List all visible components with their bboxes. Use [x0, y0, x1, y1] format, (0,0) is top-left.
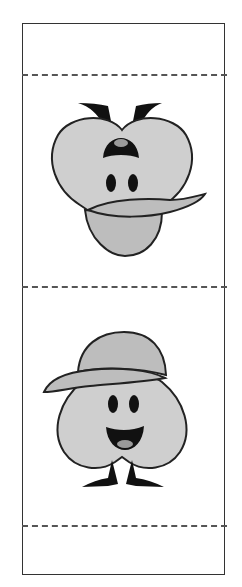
club-characters [0, 0, 242, 587]
bottom-club-figure [44, 332, 186, 487]
top-club-figure [52, 103, 205, 256]
